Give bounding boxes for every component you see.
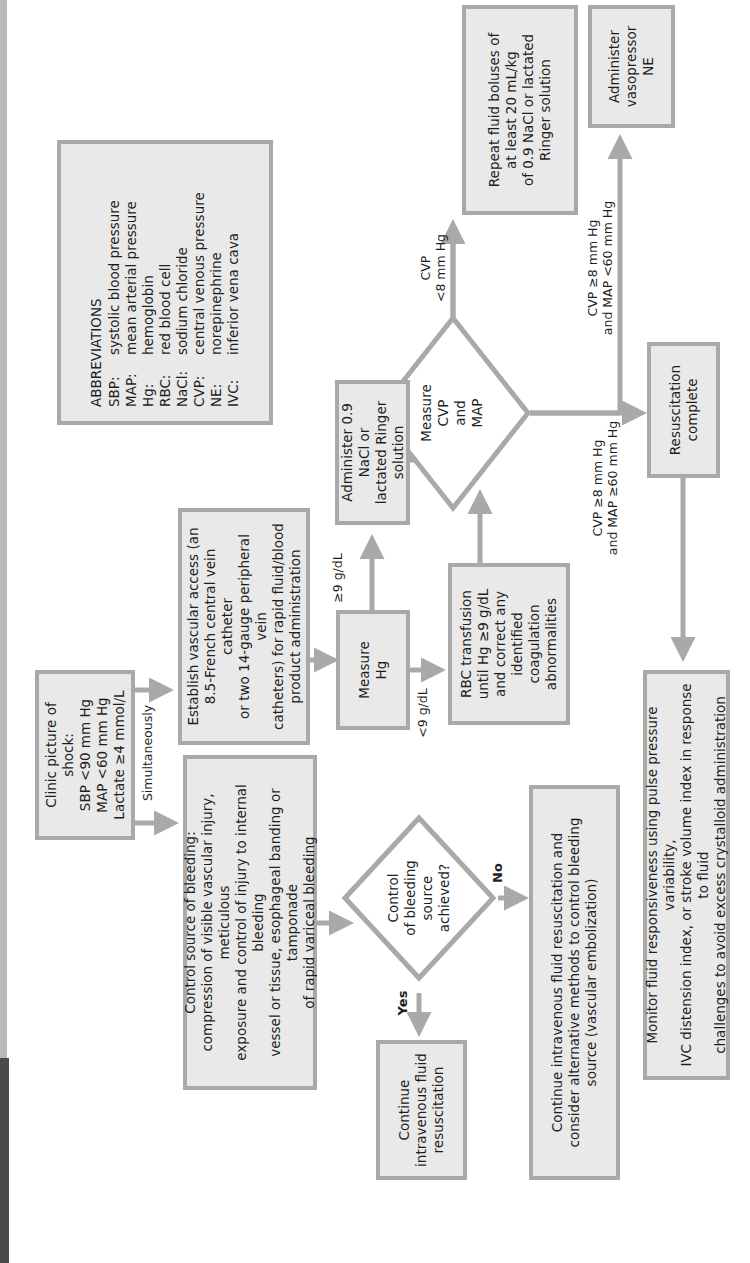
repeat-fluid-box: Repeat fluid boluses of at least 20 mL/k… xyxy=(462,5,578,215)
hg-high-label: ≥9 g/dL xyxy=(330,548,345,608)
repeat-fluid-text: Repeat fluid boluses of at least 20 mL/k… xyxy=(486,33,554,187)
yes-label: Yes xyxy=(395,988,410,1018)
continue-iv-text: Continue intravenous fluid resuscitation xyxy=(396,1053,447,1167)
rbc-transfusion-box: RBC transfusion until Hg ≥9 g/dL and cor… xyxy=(448,563,570,725)
administer-ne-text: Administer vasopressor NE xyxy=(606,26,657,108)
vascular-access-box: Establish vascular access (an 8.5-French… xyxy=(178,508,310,745)
vascular-access-text: Establish vascular access (an 8.5-French… xyxy=(185,520,304,733)
abbreviation-row: NE:norepinephrine xyxy=(208,192,225,407)
resuscitation-complete-text: Resuscitation complete xyxy=(667,365,701,455)
resuscitation-complete-box: Resuscitation complete xyxy=(647,342,720,478)
abbreviation-key: NaCl: xyxy=(174,355,191,407)
abbreviation-row: NaCl:sodium chloride xyxy=(174,192,191,407)
control-bleeding-body: compression of visible vascular injury, … xyxy=(199,767,318,1078)
administer-nacl-text: Administer 0.9 NaCl or lactated Ringer s… xyxy=(339,392,407,513)
abbreviation-value: red blood cell xyxy=(157,264,174,355)
abbreviation-key: RBC: xyxy=(157,355,174,407)
measure-hg-box: Measure Hg xyxy=(336,610,410,730)
measure-hg-text: Measure Hg xyxy=(356,641,390,698)
shock-criterion-lactate: Lactate ≥4 mmol/L xyxy=(111,682,128,828)
administer-ne-box: Administer vasopressor NE xyxy=(588,5,675,128)
simultaneously-label: Simultaneously xyxy=(140,698,155,808)
shock-criteria-box: Clinic picture of shock: SBP <90 mm Hg M… xyxy=(35,670,135,840)
abbreviation-key: IVC: xyxy=(225,355,242,407)
abbreviation-key: NE: xyxy=(208,355,225,407)
abbreviation-value: norepinephrine xyxy=(208,252,225,355)
abbreviation-row: SBP:systolic blood pressure xyxy=(106,192,123,407)
low-map-label: CVP ≥8 mm Hg and MAP <60 mm Hg xyxy=(585,198,615,338)
abbreviation-value: central venous pressure xyxy=(191,192,208,355)
abbreviation-row: MAP:mean arterial pressure xyxy=(123,192,140,407)
cvp-map-decision-text: Measure CVP and MAP xyxy=(418,368,486,458)
abbreviations-title: ABBREVIATIONS xyxy=(88,192,105,407)
abbreviation-key: Hg: xyxy=(140,355,157,407)
cvp-map-ok-label: CVP ≥8 mm Hg and MAP ≥60 mm Hg xyxy=(590,413,620,563)
monitor-text: Monitor fluid responsiveness using pulse… xyxy=(644,682,729,1068)
abbreviation-value: hemoglobin xyxy=(140,275,157,355)
rbc-transfusion-text: RBC transfusion until Hg ≥9 g/dL and cor… xyxy=(458,575,560,713)
shock-criterion-map: MAP <60 mm Hg xyxy=(94,682,111,828)
abbreviation-key: MAP: xyxy=(123,355,140,407)
administer-nacl-box: Administer 0.9 NaCl or lactated Ringer s… xyxy=(335,380,410,525)
control-bleeding-title: Control source of bleeding: xyxy=(182,767,199,1078)
abbreviation-key: SBP: xyxy=(106,355,123,407)
continue-iv-alternative-box: Continue intravenous fluid resuscitation… xyxy=(529,785,620,1180)
low-cvp-label: CVP <8 mm Hg xyxy=(418,228,448,308)
continue-iv-box: Continue intravenous fluid resuscitation xyxy=(376,1040,467,1180)
bleeding-decision-text: Control of bleeding source achieved? xyxy=(385,848,453,948)
abbreviation-value: systolic blood pressure xyxy=(106,200,123,355)
hg-low-label: <9 g/dL xyxy=(415,683,430,743)
abbreviation-key: CVP: xyxy=(191,355,208,407)
abbreviation-row: IVC:inferior vena cava xyxy=(225,192,242,407)
abbreviation-value: sodium chloride xyxy=(174,247,191,355)
abbreviation-row: RBC:red blood cell xyxy=(157,192,174,407)
no-label: No xyxy=(490,858,505,888)
shock-criterion-sbp: SBP <90 mm Hg xyxy=(77,682,94,828)
control-bleeding-box: Control source of bleeding: compression … xyxy=(183,755,317,1090)
abbreviation-value: mean arterial pressure xyxy=(123,201,140,355)
shock-criteria-title: Clinic picture of shock: xyxy=(43,682,77,828)
monitor-box: Monitor fluid responsiveness using pulse… xyxy=(643,670,730,1080)
continue-iv-alternative-text: Continue intravenous fluid resuscitation… xyxy=(549,818,600,1148)
flowchart-canvas: Clinic picture of shock: SBP <90 mm Hg M… xyxy=(0,0,750,1263)
abbreviation-value: inferior vena cava xyxy=(225,233,242,355)
abbreviation-row: Hg:hemoglobin xyxy=(140,192,157,407)
abbreviation-row: CVP:central venous pressure xyxy=(191,192,208,407)
abbreviations-box: ABBREVIATIONS SBP:systolic blood pressur… xyxy=(57,140,273,425)
